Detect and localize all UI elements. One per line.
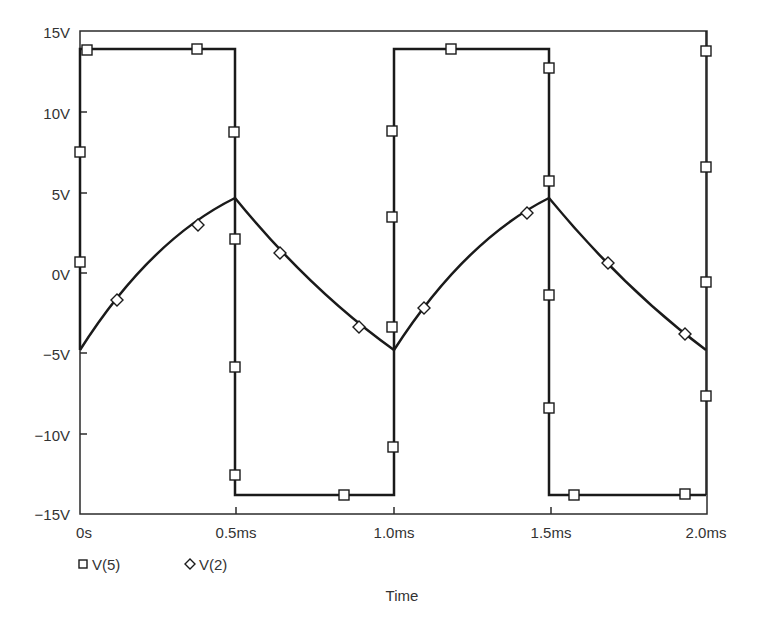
- diamond-marker-icon: [185, 559, 195, 569]
- x-tick-2-0: 2.0ms: [686, 524, 727, 541]
- x-axis: [236, 507, 551, 514]
- x-tick-1-5: 1.5ms: [531, 524, 572, 541]
- x-tick-labels: 0s 0.5ms 1.0ms 1.5ms 2.0ms: [76, 524, 726, 541]
- x-tick-0-5: 0.5ms: [216, 524, 257, 541]
- series-v2-markers: [111, 207, 691, 340]
- x-tick-1-0: 1.0ms: [374, 524, 415, 541]
- x-tick-0: 0s: [76, 524, 92, 541]
- legend-label-v5: V(5): [92, 556, 120, 573]
- legend-item-v5[interactable]: V(5): [79, 556, 120, 573]
- y-tick-10: 10V: [43, 105, 70, 122]
- y-tick-5: 5V: [52, 186, 70, 203]
- y-tick-labels: 15V 10V 5V 0V −5V −10V −15V: [35, 24, 70, 523]
- y-tick-minus10: −10V: [35, 427, 70, 444]
- y-tick-minus15: −15V: [35, 506, 70, 523]
- y-tick-15: 15V: [43, 24, 70, 41]
- x-axis-title: Time: [386, 587, 419, 604]
- series-v5-line: [80, 49, 706, 495]
- y-tick-minus5: −5V: [43, 346, 70, 363]
- square-marker-icon: [79, 560, 87, 568]
- legend-label-v2: V(2): [199, 556, 227, 573]
- y-tick-0: 0V: [52, 266, 70, 283]
- transient-plot: 15V 10V 5V 0V −5V −10V −15V 0s 0.5ms 1.0…: [0, 0, 757, 628]
- legend-item-v2[interactable]: V(2): [185, 556, 227, 573]
- legend: V(5) V(2): [79, 556, 227, 573]
